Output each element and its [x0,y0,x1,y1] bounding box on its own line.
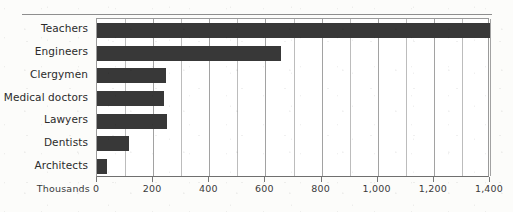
bar-row [97,114,488,129]
category-label: Clergymen [30,68,88,80]
tick-mark [321,177,322,182]
bar [97,91,164,106]
bar-row [97,46,488,61]
bar [97,68,166,83]
tick-label: 800 [311,183,330,194]
category-label: Teachers [41,22,88,34]
header-divider [22,14,492,15]
tick-label: 1,400 [475,183,503,194]
tick-mark [264,177,265,182]
tick-mark [433,177,434,182]
bar-row [97,68,488,83]
bar [97,46,281,61]
category-label: Medical doctors [4,91,88,103]
tick-label: 600 [255,183,274,194]
tick-mark [489,177,490,182]
tick-mark [377,177,378,182]
tick-mark [96,177,97,182]
bar-row [97,23,488,38]
bars-layer [97,19,488,176]
category-label: Dentists [44,136,88,148]
category-label: Engineers [35,45,88,57]
bar [97,114,167,129]
bar [97,136,129,151]
tick-mark [152,177,153,182]
category-axis-labels: TeachersEngineersClergymenMedical doctor… [0,18,92,177]
bar-chart: TeachersEngineersClergymenMedical doctor… [0,0,513,212]
category-label: Architects [34,159,88,171]
bar [97,159,107,174]
tick-label: 1,200 [419,183,447,194]
tick-label: 200 [143,183,162,194]
tick-mark [208,177,209,182]
bar-row [97,136,488,151]
bar-row [97,159,488,174]
tick-label: 400 [199,183,218,194]
bar [97,23,490,38]
gridline [490,19,491,176]
bar-row [97,91,488,106]
x-axis-unit-label: Thousands [37,183,90,194]
tick-label: 1,000 [363,183,391,194]
tick-label: 0 [93,183,99,194]
plot-area [96,18,489,177]
category-label: Lawyers [44,113,88,125]
